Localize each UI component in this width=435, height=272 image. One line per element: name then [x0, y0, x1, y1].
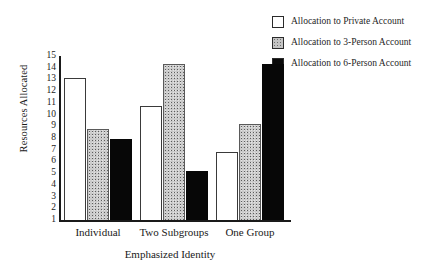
y-axis-tick-label: 15: [47, 51, 57, 61]
bar-group: [64, 56, 132, 220]
y-axis-line: [59, 56, 61, 220]
bar-private-account: [216, 152, 238, 220]
y-axis-tick-label: 11: [47, 98, 56, 108]
y-axis-title: Resources Allocated: [18, 39, 29, 179]
bar-3-person-account: [87, 129, 109, 220]
white-swatch-icon: [272, 16, 284, 28]
bar-group: [140, 56, 208, 220]
gray-stipple-swatch-icon: [272, 37, 284, 49]
legend-item-6-person-account: Allocation to 6-Person Account: [272, 55, 432, 72]
y-axis-tick-label: 2: [51, 204, 56, 214]
y-axis-tick-label: 1: [51, 215, 56, 225]
y-axis-tick-label: 7: [51, 145, 56, 155]
legend-item-3-person-account: Allocation to 3-Person Account: [272, 34, 432, 51]
y-axis-tick-label: 8: [51, 133, 56, 143]
legend-label: Allocation to 6-Person Account: [291, 58, 411, 69]
x-axis-category-label: Individual: [75, 226, 120, 238]
chart-legend: Allocation to Private Account Allocation…: [272, 13, 432, 76]
legend-item-private-account: Allocation to Private Account: [272, 13, 432, 30]
x-axis-line: [59, 220, 291, 222]
bar-group: [216, 56, 284, 220]
y-axis-tick-label: 5: [51, 168, 56, 178]
legend-label: Allocation to Private Account: [291, 16, 404, 27]
x-axis-title: Emphasized Identity: [55, 248, 285, 260]
y-axis-tick-label: 9: [51, 122, 56, 132]
bar-private-account: [140, 106, 162, 220]
bar-6-person-account: [262, 64, 284, 220]
bar-chart-figure: Allocation to Private Account Allocation…: [0, 0, 435, 272]
y-axis-tick-label: 13: [47, 75, 57, 85]
y-axis-tick-label: 14: [47, 63, 57, 73]
bar-6-person-account: [186, 171, 208, 220]
y-axis-tick-label: 10: [47, 110, 57, 120]
legend-label: Allocation to 3-Person Account: [291, 37, 411, 48]
x-axis-category-label: One Group: [225, 226, 274, 238]
bar-3-person-account: [239, 124, 261, 220]
y-axis-tick-label: 6: [51, 157, 56, 167]
bar-3-person-account: [163, 64, 185, 220]
y-axis-tick-label: 3: [51, 192, 56, 202]
bar-6-person-account: [110, 139, 132, 220]
y-axis-tick-label: 12: [47, 86, 57, 96]
plot-area: 151413121110987654321 IndividualTwo Subg…: [59, 56, 289, 220]
x-axis-category-label: Two Subgroups: [139, 226, 208, 238]
bar-private-account: [64, 78, 86, 220]
y-axis-tick-label: 4: [51, 180, 56, 190]
